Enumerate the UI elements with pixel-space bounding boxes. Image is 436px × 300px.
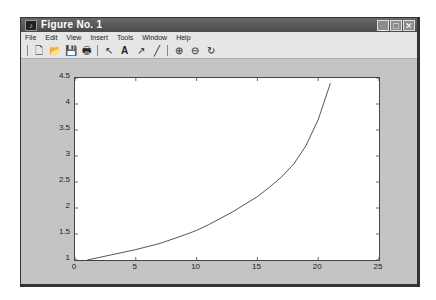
close-icon: ✕ [405, 21, 413, 31]
x-tick-label: 10 [186, 262, 206, 271]
rotate-3d-button[interactable]: ↻ [205, 45, 216, 56]
menu-bar: File Edit View Insert Tools Window Help [21, 32, 417, 43]
data-series-line [87, 83, 330, 260]
window-title: Figure No. 1 [41, 18, 377, 32]
title-bar[interactable]: ♪ Figure No. 1 _ □ ✕ [21, 18, 417, 32]
open-file-icon: 📂 [49, 45, 61, 56]
print-button[interactable]: 🖶 [81, 45, 92, 56]
toolbar-separator [97, 45, 98, 56]
minimize-button[interactable]: _ [377, 20, 389, 31]
y-tick-label: 3.5 [48, 123, 70, 132]
toolbar-separator [167, 45, 168, 56]
y-tick-label: 3 [48, 149, 70, 158]
figure-canvas: 11.522.533.544.5 0510152025 [21, 59, 417, 285]
zoom-in-button[interactable]: ⊕ [173, 45, 184, 56]
new-figure-button[interactable]: 🗋 [33, 45, 44, 56]
open-file-button[interactable]: 📂 [49, 45, 60, 56]
insert-line-button[interactable]: ╱ [151, 45, 162, 56]
figure-toolbar: 🗋 📂 💾 🖶 ↖ A ↗ ╱ ⊕ ⊖ ↻ [21, 43, 417, 59]
toolbar-grip [27, 45, 28, 56]
plot-axes[interactable] [74, 77, 380, 261]
menu-file[interactable]: File [25, 32, 36, 43]
select-arrow-icon: ↖ [105, 45, 113, 56]
menu-view[interactable]: View [66, 32, 81, 43]
x-tick-label: 5 [125, 262, 145, 271]
insert-line-icon: ╱ [154, 45, 160, 56]
y-tick-label: 2 [48, 201, 70, 210]
menu-tools[interactable]: Tools [117, 32, 133, 43]
insert-arrow-icon: ↗ [137, 45, 145, 56]
insert-text-icon: A [121, 45, 128, 56]
menu-window[interactable]: Window [142, 32, 167, 43]
x-tick-label: 25 [368, 262, 388, 271]
zoom-out-button[interactable]: ⊖ [189, 45, 200, 56]
menu-help[interactable]: Help [176, 32, 190, 43]
figure-window: ♪ Figure No. 1 _ □ ✕ File Edit View Inse… [20, 17, 420, 287]
insert-text-button[interactable]: A [119, 45, 130, 56]
rotate-3d-icon: ↻ [207, 45, 215, 56]
x-tick-label: 15 [246, 262, 266, 271]
x-tick-label: 20 [307, 262, 327, 271]
line-plot [75, 78, 379, 260]
close-button[interactable]: ✕ [403, 20, 415, 31]
x-tick-label: 0 [64, 262, 84, 271]
y-tick-label: 1.5 [48, 227, 70, 236]
menu-edit[interactable]: Edit [45, 32, 57, 43]
y-tick-label: 4.5 [48, 71, 70, 80]
menu-insert[interactable]: Insert [90, 32, 108, 43]
minimize-icon: _ [380, 21, 385, 31]
print-icon: 🖶 [82, 45, 91, 56]
zoom-in-icon: ⊕ [175, 45, 183, 56]
select-button[interactable]: ↖ [103, 45, 114, 56]
insert-arrow-button[interactable]: ↗ [135, 45, 146, 56]
maximize-icon: □ [393, 21, 398, 31]
save-button[interactable]: 💾 [65, 45, 76, 56]
save-icon: 💾 [65, 45, 77, 56]
zoom-out-icon: ⊖ [191, 45, 199, 56]
new-figure-icon: 🗋 [35, 45, 43, 56]
matlab-app-icon: ♪ [25, 20, 37, 31]
y-tick-label: 1 [48, 253, 70, 262]
maximize-button[interactable]: □ [390, 20, 402, 31]
y-tick-label: 2.5 [48, 175, 70, 184]
y-tick-label: 4 [48, 97, 70, 106]
